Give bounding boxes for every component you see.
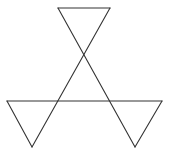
long-diagonal-right [58, 8, 135, 147]
right-triangle-edge [135, 101, 162, 147]
left-triangle-edge [7, 101, 32, 147]
long-diagonal-left [32, 8, 110, 147]
triangle-figure [0, 0, 170, 154]
